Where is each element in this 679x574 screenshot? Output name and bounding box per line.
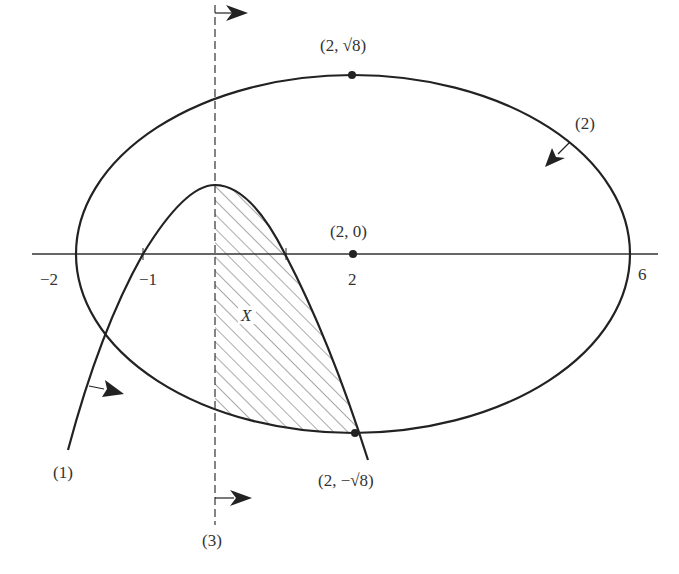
region-label-x: X [240,306,252,325]
curve-label-ellipse: (2) [575,114,595,133]
point-bottom [351,429,359,437]
point-top [348,71,356,79]
point-center [349,250,357,258]
tick-label-2: 2 [348,270,357,289]
tick-label-minus-2: −2 [40,270,58,289]
arrow-right-icon-bottom [215,490,252,506]
curve-label-parabola: (1) [53,463,73,482]
diagram-canvas: −2 −1 2 6 (2, √8) (2, 0) (2, −√8) (1) (2… [0,0,679,574]
tick-label-minus-1: −1 [139,270,157,289]
arrow-inward-icon-ellipse [545,142,570,167]
point-label-top: (2, √8) [320,36,366,55]
point-label-center: (2, 0) [330,222,367,241]
arrow-right-icon-parabola [89,380,124,397]
arrow-right-icon-top [215,5,248,21]
tick-label-6: 6 [638,265,647,284]
point-label-bottom: (2, −√8) [318,471,374,490]
curve-label-line: (3) [202,531,222,550]
